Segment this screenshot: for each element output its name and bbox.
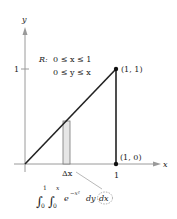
- iterated-integral: ∫ 1 0 ∫ x 0 e −x² dy dx: [36, 184, 113, 209]
- line-y-equals-x: [25, 69, 116, 164]
- region-constraint-y: 0 ≤ y ≤ x: [53, 68, 91, 77]
- outer-upper-limit: 1: [43, 184, 47, 191]
- diagram-canvas: y x 1 1 (1, 1) (1, 0) R: 0 ≤ x ≤ 1 0 ≤ y…: [0, 0, 177, 219]
- inner-lower-limit: 0: [53, 202, 57, 209]
- delta-x-strip: [63, 121, 70, 164]
- point-1-1: [114, 67, 118, 71]
- outer-lower-limit: 0: [41, 202, 45, 209]
- leader-line: [76, 172, 102, 189]
- y-axis-label: y: [21, 15, 27, 24]
- integrand-base: e: [64, 194, 69, 203]
- inner-upper-limit: x: [56, 184, 60, 191]
- x-axis-arrow-icon: [153, 162, 161, 167]
- inner-differential: dy: [86, 194, 96, 203]
- point-1-0: [114, 162, 118, 166]
- integrand-exponent: −x²: [70, 190, 80, 196]
- delta-x-label: Δx: [62, 169, 73, 178]
- x-tick-label: 1: [114, 171, 119, 180]
- y-tick-label: 1: [14, 65, 19, 74]
- region-name: R:: [38, 55, 48, 64]
- region-constraint-x: 0 ≤ x ≤ 1: [53, 55, 91, 64]
- x-axis-label: x: [163, 160, 168, 169]
- outer-differential: dx: [99, 194, 109, 203]
- point-1-1-label: (1, 1): [121, 65, 143, 74]
- point-1-0-label: (1, 0): [120, 153, 142, 162]
- y-axis-arrow-icon: [23, 27, 28, 35]
